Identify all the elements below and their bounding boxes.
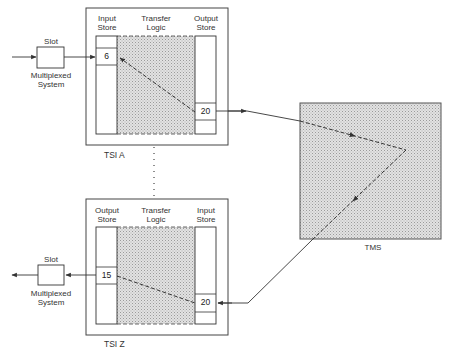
tsi-z-label: TSI Z [104,339,125,349]
tsi-z-middle-header-line1: Transfer [136,206,176,215]
tsi-a-output-cell: 20 [195,106,216,116]
tsi-z-transfer-logic [117,227,195,324]
tsi-a-right-header-line2: Store [189,23,223,32]
slot-bottom-caption: Multiplexed System [26,289,76,307]
tsi-a-right-header-line1: Output [189,14,223,23]
slot-top-caption: Multiplexed System [26,71,76,89]
tsi-z-input-cell: 20 [195,297,216,307]
slot-bottom [12,265,96,285]
tsi-a-label: TSI A [104,150,125,160]
tsi-z-right-header-line1: Input [193,206,219,215]
tsi-a-transfer-logic [117,36,195,134]
slot-top-title: Slot [36,37,66,46]
tms-block [300,103,441,239]
slot-top-caption-line2: System [26,80,76,89]
tsi-a-middle-header-line1: Transfer [136,14,176,23]
tsi-z-right-header: Input Store [193,206,219,224]
tsi-z-input-store [195,227,216,324]
tsi-z-left-header: Output Store [90,206,124,224]
tsi-a-middle-header: Transfer Logic [136,14,176,32]
tsi-a-left-header-line1: Input [94,14,120,23]
tms-label: TMS [358,243,388,252]
tsi-a-left-header-line2: Store [94,23,120,32]
slot-bottom-caption-line2: System [26,298,76,307]
tsi-a-output-store [195,36,216,134]
slot-bottom-caption-line1: Multiplexed [26,289,76,298]
slot-top [12,47,95,68]
tsi-z-left-header-line1: Output [90,206,124,215]
tsi-a-middle-header-line2: Logic [136,23,176,32]
tsi-a-input-cell: 6 [96,51,117,61]
slot-top-caption-line1: Multiplexed [26,71,76,80]
tsi-z-output-cell: 15 [96,270,117,280]
tsi-z-left-header-line2: Store [90,215,124,224]
tsi-a-right-header: Output Store [189,14,223,32]
tsi-z-middle-header-line2: Logic [136,215,176,224]
tsi-z-middle-header: Transfer Logic [136,206,176,224]
tsi-a-left-header: Input Store [94,14,120,32]
slot-bottom-title: Slot [36,255,66,264]
tsi-z-right-header-line2: Store [193,215,219,224]
